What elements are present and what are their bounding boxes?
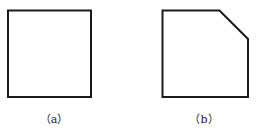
figure-label-a: （a） — [34, 110, 74, 126]
cut-corner-shape-b — [163, 11, 249, 98]
square-shape-a — [8, 11, 91, 98]
figure-label-b: （b） — [184, 110, 224, 126]
